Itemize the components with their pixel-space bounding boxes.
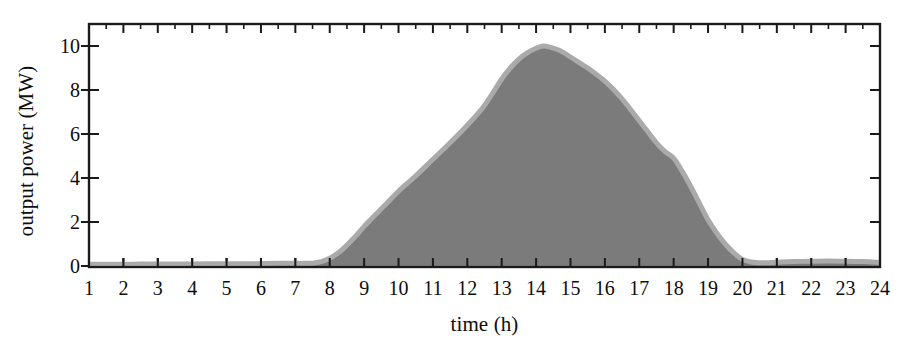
chart-figure: output power (MW) 0246810 12345678910111… <box>0 0 908 350</box>
series-area-fill <box>89 46 880 266</box>
plot-area <box>0 0 908 350</box>
